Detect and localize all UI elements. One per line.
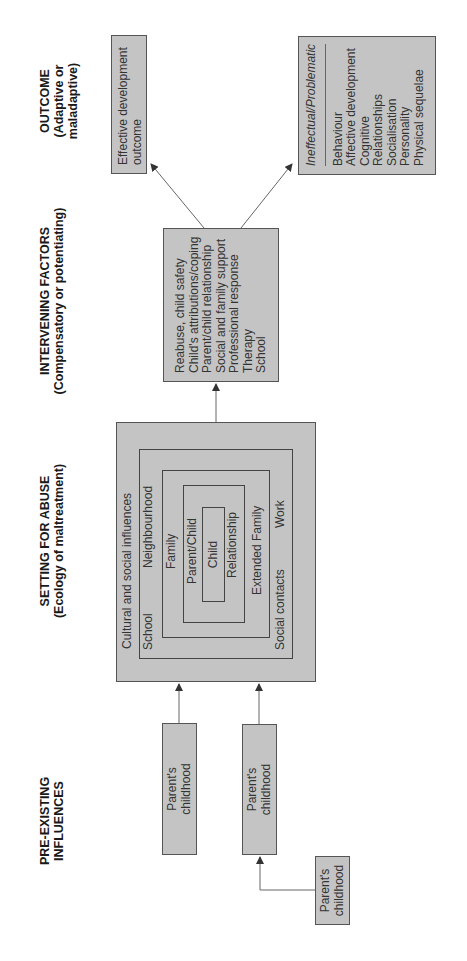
effective-outcome-box: Effective development outcome: [111, 35, 147, 174]
parent-childhood-label: Parent's: [246, 764, 260, 815]
ineffectual-item: Cognitive: [359, 37, 373, 166]
ineffectual-title: Ineffectual/Problematic: [305, 44, 326, 166]
setting-outer-box: Cultural and social influences School Ne…: [116, 422, 316, 682]
header-setting-subtitle: (Ecology of maltreatment): [52, 421, 66, 661]
school-label: School: [142, 613, 156, 650]
intervening-item: School: [255, 229, 269, 373]
parent-childhood-label: childhood: [333, 865, 347, 916]
parent-childhood-label: childhood: [180, 763, 194, 814]
header-pre-existing-title: PRE-EXISTING INFLUENCES: [38, 741, 66, 901]
ineffectual-item: Physical sequelae: [413, 37, 427, 166]
parent-childhood-box-1: Parent's childhood: [162, 723, 197, 855]
community-ring: School Neighbourhood Social contacts Wor…: [139, 449, 293, 659]
intervening-item: Therapy: [242, 229, 256, 373]
header-pre-existing: PRE-EXISTING INFLUENCES: [38, 741, 66, 901]
effective-outcome-label: outcome: [131, 36, 145, 165]
intervening-item: Social and family support: [215, 229, 229, 373]
header-outcome-title: OUTCOME: [38, 26, 52, 176]
family-label: Family: [165, 534, 179, 569]
ineffectual-item: Personality: [399, 37, 413, 166]
parent-child-label: Parent/Child: [186, 518, 200, 584]
work-label: Work: [274, 500, 288, 528]
diagram-stage: PRE-EXISTING INFLUENCES SETTING FOR ABUS…: [0, 0, 467, 961]
parent-childhood-label: childhood: [260, 764, 274, 815]
cultural-social-label: Cultural and social influences: [121, 493, 135, 649]
parent-childhood-box-2: Parent's childhood: [242, 724, 277, 855]
extended-family-label: Extended Family: [251, 506, 265, 595]
intervening-item: Parent/child relationship: [201, 229, 215, 373]
ineffectual-item: Behaviour: [332, 37, 346, 166]
effective-outcome-label: Effective development: [117, 36, 131, 165]
child-label: Child: [207, 541, 221, 568]
ineffectual-outcome-box: Ineffectual/Problematic Behaviour Affect…: [298, 36, 436, 175]
parent-childhood-box-3: Parent's childhood: [315, 856, 350, 925]
family-ring: Family Extended Family Parent/Child Rela…: [162, 470, 270, 638]
parent-childhood-label: Parent's: [319, 865, 333, 916]
social-contacts-label: Social contacts: [274, 569, 288, 650]
header-intervening: INTERVENING FACTORS (Compensatory or pot…: [38, 206, 66, 396]
intervening-item: Reabuse, child safety: [174, 229, 188, 373]
parent-childhood-label: Parent's: [166, 763, 180, 814]
ineffectual-item: Socialisation: [386, 37, 400, 166]
intervening-item: Professional response: [228, 229, 242, 373]
header-outcome-subtitle: (Adaptive or maladaptive): [52, 26, 80, 176]
header-setting: SETTING FOR ABUSE (Ecology of maltreatme…: [38, 421, 66, 661]
neighbourhood-label: Neighbourhood: [142, 486, 156, 568]
header-intervening-title: INTERVENING FACTORS: [38, 206, 52, 396]
ineffectual-item: Relationships: [372, 37, 386, 166]
header-setting-title: SETTING FOR ABUSE: [38, 421, 52, 661]
header-outcome: OUTCOME (Adaptive or maladaptive): [38, 26, 80, 176]
parent-child-ring: Parent/Child Relationship Child: [183, 485, 245, 623]
intervening-item: Child's attributions/coping: [188, 229, 202, 373]
child-core: Child: [202, 507, 225, 602]
intervening-factors-box: Reabuse, child safety Child's attributio…: [163, 228, 279, 382]
ineffectual-item: Affective development: [345, 37, 359, 166]
relationship-label: Relationship: [226, 512, 240, 578]
header-intervening-subtitle: (Compensatory or potentiating): [52, 206, 66, 396]
